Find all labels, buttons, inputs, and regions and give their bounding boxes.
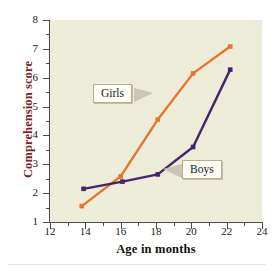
x-tick-label-12: 12 [38, 226, 62, 237]
data-point-boys-0 [81, 187, 86, 192]
y-tick-7 [43, 49, 50, 50]
x-tick-label-16: 16 [109, 226, 133, 237]
series-canvas [50, 20, 262, 222]
x-tick-minor-19 [174, 222, 175, 226]
x-tick-label-24: 24 [250, 226, 274, 237]
x-tick-minor-23 [244, 222, 245, 226]
y-tick-2 [43, 193, 50, 194]
polyline-girls [82, 47, 230, 207]
boys-callout-pointer-icon [163, 164, 182, 178]
y-tick-minor-5.5 [46, 92, 50, 93]
x-tick-label-20: 20 [179, 226, 203, 237]
y-tick-minor-4.5 [46, 121, 50, 122]
y-tick-4 [43, 135, 50, 136]
y-tick-1 [43, 222, 50, 223]
data-point-girls-0 [80, 204, 85, 209]
data-point-girls-3 [191, 71, 196, 76]
y-tick-5 [43, 107, 50, 108]
y-tick-minor-1.5 [46, 208, 50, 209]
x-tick-label-14: 14 [73, 226, 97, 237]
y-tick-label-1: 1 [18, 216, 38, 227]
data-point-boys-2 [155, 172, 160, 177]
data-point-boys-1 [120, 179, 125, 184]
x-tick-minor-15 [103, 222, 104, 226]
x-axis-title: Age in months [50, 242, 262, 257]
y-tick-minor-2.5 [46, 179, 50, 180]
bottom-divider [8, 264, 266, 265]
y-tick-minor-6.5 [46, 63, 50, 64]
y-tick-8 [43, 20, 50, 21]
data-point-boys-3 [191, 145, 196, 150]
y-tick-minor-3.5 [46, 150, 50, 151]
plot-area [50, 20, 262, 222]
x-tick-minor-13 [68, 222, 69, 226]
boys-callout-label: Boys [182, 160, 222, 179]
x-tick-minor-21 [209, 222, 210, 226]
y-tick-6 [43, 78, 50, 79]
data-point-girls-2 [155, 117, 160, 122]
data-point-boys-4 [228, 67, 233, 72]
y-tick-label-8: 8 [18, 14, 38, 25]
x-tick-minor-17 [138, 222, 139, 226]
series-line-girls [80, 44, 233, 208]
y-tick-3 [43, 164, 50, 165]
x-tick-label-18: 18 [144, 226, 168, 237]
comprehension-score-line-chart: 1234567812141618202224 Comprehension sco… [0, 0, 274, 271]
x-tick-label-22: 22 [215, 226, 239, 237]
y-tick-minor-7.5 [46, 34, 50, 35]
data-point-girls-1 [118, 174, 123, 179]
y-axis-title: Comprehension score [21, 45, 36, 195]
girls-callout-label: Girls [93, 84, 132, 103]
data-point-girls-4 [228, 44, 233, 49]
girls-callout-pointer-icon [134, 88, 153, 102]
